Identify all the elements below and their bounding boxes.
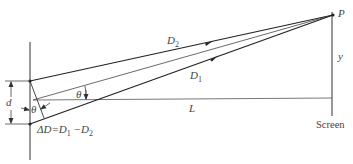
label-theta-center: θ [76,88,82,100]
theta-arrow-left-icon [21,108,29,110]
path-d2-line [30,15,333,81]
label-p: P [337,7,345,19]
label-d: d [6,96,12,108]
label-y: y [337,50,343,62]
label-d2: D2 [166,34,179,49]
point-p-dot [331,13,334,16]
double-slit-diagram: P D2 D1 y L d θ θ ΔD=D1 −D2 Screen [0,0,353,164]
label-screen: Screen [316,119,345,130]
path-d1-line [30,15,333,124]
label-theta-slit: θ [31,103,37,115]
label-path-difference: ΔD=D1 −D2 [36,123,93,138]
label-l: L [188,102,195,114]
label-d1: D1 [189,69,202,84]
theta-arrow-right-icon [41,103,50,109]
